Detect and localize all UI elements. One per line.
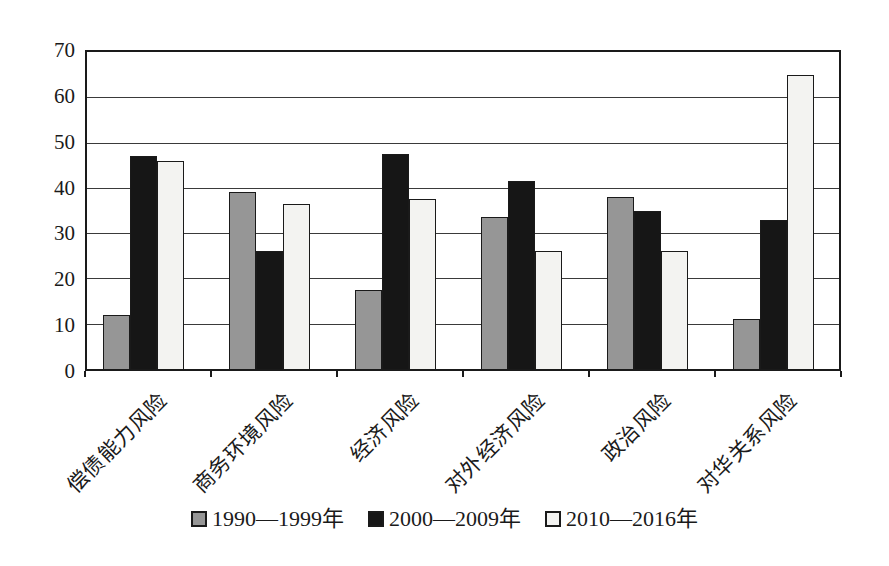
x-axis-tick	[462, 371, 464, 377]
gridline-10	[87, 324, 839, 325]
bar-series2-经济风险	[382, 154, 409, 369]
bar-series2-对华关系风险	[760, 220, 787, 369]
bar-series1-政治风险	[607, 197, 634, 369]
y-axis-label-60: 60	[15, 85, 75, 107]
y-axis-label-70: 70	[15, 39, 75, 61]
y-axis-label-10: 10	[15, 314, 75, 336]
bar-series3-商务环境风险	[283, 204, 310, 369]
bar-series1-对华关系风险	[733, 319, 760, 369]
x-axis-label-对外经济风险: 对外经济风险	[437, 384, 552, 499]
x-axis-tick	[336, 371, 338, 377]
legend: 1990—1999年2000—2009年2010—2016年	[0, 506, 889, 532]
x-axis-label-经济风险: 经济风险	[342, 384, 425, 467]
x-axis-tick	[588, 371, 590, 377]
bar-series2-商务环境风险	[256, 251, 283, 369]
bar-series2-政治风险	[634, 211, 661, 370]
bar-series3-经济风险	[409, 199, 436, 369]
legend-label: 2010—2016年	[566, 506, 698, 532]
x-axis-label-偿债能力风险: 偿债能力风险	[59, 384, 174, 499]
legend-item-3: 2010—2016年	[545, 506, 698, 532]
bar-series2-对外经济风险	[508, 181, 535, 369]
legend-label: 1990—1999年	[212, 506, 344, 532]
bar-series3-偿债能力风险	[157, 161, 184, 369]
bar-series1-经济风险	[355, 290, 382, 369]
x-axis-label-政治风险: 政治风险	[594, 384, 677, 467]
bar-series3-对外经济风险	[535, 251, 562, 369]
bar-series1-偿债能力风险	[103, 315, 130, 369]
legend-swatch-icon	[191, 511, 207, 527]
y-axis-label-40: 40	[15, 177, 75, 199]
x-axis-label-对华关系风险: 对华关系风险	[689, 384, 804, 499]
x-axis-tick	[84, 371, 86, 377]
gridline-30	[87, 233, 839, 234]
bar-chart-figure: 010203040506070 偿债能力风险商务环境风险经济风险对外经济风险政治…	[0, 0, 889, 566]
legend-label: 2000—2009年	[389, 506, 521, 532]
legend-item-2: 2000—2009年	[368, 506, 521, 532]
gridline-50	[87, 143, 839, 144]
y-axis-label-20: 20	[15, 268, 75, 290]
bar-series3-政治风险	[661, 251, 688, 369]
x-axis-tick	[210, 371, 212, 377]
bar-series1-商务环境风险	[229, 192, 256, 369]
bar-series1-对外经济风险	[481, 217, 508, 369]
x-axis-tick	[840, 371, 842, 377]
bar-series3-对华关系风险	[787, 75, 814, 369]
gridline-20	[87, 278, 839, 279]
legend-swatch-icon	[545, 511, 561, 527]
gridline-40	[87, 188, 839, 189]
y-axis-label-30: 30	[15, 222, 75, 244]
bar-series2-偿债能力风险	[130, 156, 157, 369]
x-axis-tick	[714, 371, 716, 377]
plot-area	[85, 50, 841, 371]
gridline-60	[87, 97, 839, 98]
x-axis-label-商务环境风险: 商务环境风险	[185, 384, 300, 499]
y-axis-label-0: 0	[15, 360, 75, 382]
legend-swatch-icon	[368, 511, 384, 527]
y-axis-label-50: 50	[15, 131, 75, 153]
legend-item-1: 1990—1999年	[191, 506, 344, 532]
